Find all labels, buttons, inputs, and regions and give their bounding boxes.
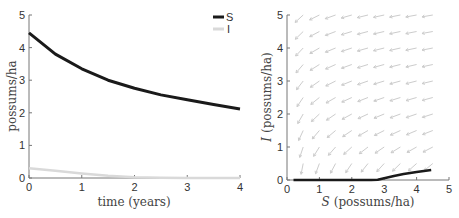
right-y-tick-label: 4 [277,42,283,54]
right-x-label: S(possums/ha) [321,195,414,209]
quiver-arrow [310,65,319,71]
quiver-arrow [393,164,401,172]
right-y-tick-label: 0 [277,174,283,186]
series-line-s [29,33,240,109]
series-line-i [29,168,240,178]
quiver-arrow [361,164,368,173]
left-x-tick-label: 3 [184,181,190,193]
quiver-arrow [296,65,303,73]
right-x-tick-label: 4 [414,183,420,195]
quiver-arrow [297,98,303,107]
left-y-tick-label: 5 [19,9,25,21]
quiver-arrow [327,114,336,120]
quiver-arrow [312,131,319,139]
left-y-tick-label: 0 [19,172,25,184]
right-x-tick-label: 3 [381,183,387,195]
quiver-arrow [296,48,304,56]
quiver-arrow [407,147,417,152]
legend-label-s: S [226,11,233,23]
left-y-tick-label: 4 [19,42,25,54]
quiver-arrow [358,131,368,136]
right-x-tick-label: 2 [349,183,355,195]
right-y-label-unit: (possums/ha) [260,52,274,133]
legend: S I [213,11,233,35]
left-y-tick-label: 1 [19,139,25,151]
left-y-tick-label: 3 [19,74,25,86]
left-y-label: possums/ha [5,60,19,131]
right-y-tick-label: 3 [277,75,283,87]
legend-label-i: I [227,23,230,35]
quiver-arrow [359,147,368,154]
quiver-arrow [311,114,319,122]
quiver-arrow [408,164,416,171]
right-x-label-unit: (possums/ha) [334,195,415,209]
quiver-arrow [314,147,320,156]
left-x-tick-label: 1 [79,181,85,193]
quiver-arrow [310,81,319,87]
quiver-arrow [343,131,352,137]
left-x-label: time (years) [97,195,170,209]
quiver-arrow [310,48,320,53]
quiver-arrow [346,164,352,173]
figure: 012345 01234 time (years) possums/ha S I… [0,0,459,218]
quiver-arrow [328,147,335,155]
right-y-label-var: I [260,137,274,143]
quiver-arrow [310,32,320,37]
time-series-plot: 012345 01234 time (years) possums/ha S I [5,9,243,209]
phase-plane-plot: 012345 012345 S(possums/ha) I(possums/ha… [260,9,452,209]
right-x-label-var: S [321,195,329,209]
quiver-arrow [391,147,400,153]
right-x-tick-label: 0 [284,183,290,195]
quiver-arrow [298,114,303,124]
right-x-tick-label: 5 [446,183,452,195]
quiver-arrow [327,131,335,138]
quiver-arrow [295,15,303,22]
left-x-tick-label: 4 [237,181,243,193]
right-y-tick-label: 5 [277,9,283,21]
quiver-arrow [344,147,352,154]
quiver-arrow [377,164,384,172]
right-x-tick-label: 1 [316,183,322,195]
right-y-label: I(possums/ha) [260,52,274,143]
right-y-tick-label: 1 [277,141,283,153]
left-x-tick-label: 0 [26,181,32,193]
right-y-tick-label: 2 [277,108,283,120]
quiver-arrow [296,81,303,90]
left-x-tick-label: 2 [131,181,137,193]
quiver-arrow [295,32,303,40]
left-y-tick-label: 2 [19,107,25,119]
quiver-arrow [326,98,336,103]
quiver-arrow [311,98,320,105]
quiver-arrow [375,147,384,153]
